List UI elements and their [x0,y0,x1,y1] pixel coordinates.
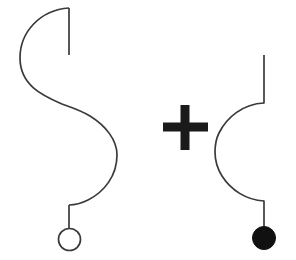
hollow-circle-pendant [59,229,81,251]
canvas-background [0,0,296,260]
filled-circle-pendant [253,227,276,250]
abstract-curve-diagram [0,0,296,260]
diagram-canvas [0,0,296,260]
